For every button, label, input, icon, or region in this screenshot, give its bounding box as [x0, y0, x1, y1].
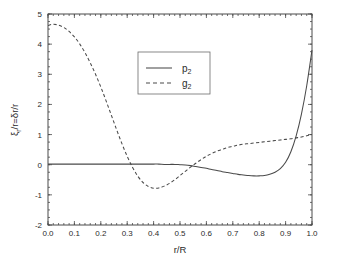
x-axis-tick-labels: 0.00.10.20.30.40.50.60.70.80.91.0	[42, 229, 318, 238]
y-tick-label: 4	[38, 40, 43, 49]
y-tick-label: 0	[38, 161, 43, 170]
y-tick-label: -1	[35, 191, 43, 200]
y-tick-label: 3	[38, 70, 43, 79]
x-tick-label: 0.8	[254, 229, 266, 238]
y-tick-label: 2	[38, 100, 43, 109]
figure-container: 0.00.10.20.30.40.50.60.70.80.91.0 543210…	[0, 0, 338, 265]
y-tick-label: -2	[35, 221, 43, 230]
x-tick-label: 0.6	[201, 229, 213, 238]
x-axis-minor-ticks	[48, 14, 312, 225]
legend-box	[138, 52, 210, 94]
chart-plot: 0.00.10.20.30.40.50.60.70.80.91.0 543210…	[0, 0, 338, 265]
x-tick-label: 0.7	[227, 229, 239, 238]
x-tick-label: 0.9	[280, 229, 292, 238]
y-axis-title: ξr/r=δr/r	[9, 104, 22, 136]
y-tick-label: 5	[38, 10, 43, 19]
x-tick-label: 0.5	[174, 229, 186, 238]
y-axis-tick-labels: 543210-1-2	[35, 10, 43, 230]
y-title-over-r: /r=	[9, 118, 20, 130]
y-tick-label: 1	[38, 131, 43, 140]
x-tick-label: 0.4	[148, 229, 160, 238]
y-title-tail: r/r	[9, 104, 20, 113]
x-tick-label: 0.1	[69, 229, 81, 238]
svg-text:ξr/r=δr/r: ξr/r=δr/r	[9, 104, 22, 136]
x-tick-label: 1.0	[306, 229, 318, 238]
x-tick-label: 0.0	[42, 229, 54, 238]
x-axis-title: r/R	[174, 244, 187, 255]
plot-frame	[48, 14, 312, 225]
data-series-group	[48, 24, 312, 188]
x-tick-label: 0.2	[95, 229, 107, 238]
x-tick-label: 0.3	[122, 229, 134, 238]
legend: p2 g2	[138, 52, 210, 94]
